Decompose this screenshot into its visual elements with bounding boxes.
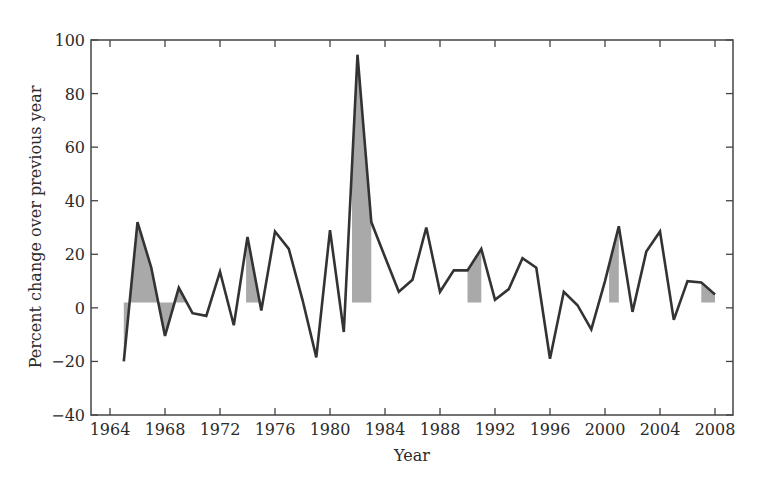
y-tick-label: 60 [65,138,85,157]
x-tick-label: 1996 [530,420,571,439]
x-tick-label: 1992 [475,420,516,439]
shaded-periods [124,55,715,362]
x-tick-label: 1964 [90,420,131,439]
x-axis-title: Year [393,446,430,465]
y-tick-label: 40 [65,192,85,211]
y-tick-label: −40 [51,406,85,425]
x-tick-label: 2004 [640,420,681,439]
x-tick-label: 1976 [255,420,296,439]
x-tick-label: 2000 [585,420,626,439]
x-axis: 1964196819721976198019841988199219962000… [90,40,736,439]
x-tick-label: 1988 [420,420,461,439]
x-tick-label: 1972 [200,420,241,439]
x-tick-label: 1980 [310,420,351,439]
y-axis-title: Percent change over previous year [26,85,45,368]
chart-canvas: 1964196819721976198019841988199219962000… [0,0,764,486]
x-tick-label: 1984 [365,420,406,439]
y-tick-label: 20 [65,245,85,264]
plot-frame [91,40,733,415]
x-tick-label: 1968 [145,420,186,439]
y-tick-label: 80 [65,85,85,104]
y-axis: −40−20020406080100 [51,31,733,425]
shaded-period [468,249,482,303]
series-line [124,55,715,362]
y-tick-label: 100 [54,31,85,50]
y-tick-label: −20 [51,352,85,371]
x-tick-label: 2008 [695,420,736,439]
y-tick-label: 0 [75,299,85,318]
line-chart: 1964196819721976198019841988199219962000… [0,0,764,486]
shaded-period [609,226,619,302]
